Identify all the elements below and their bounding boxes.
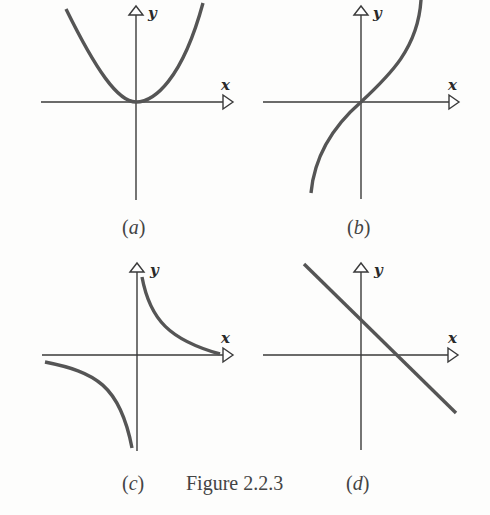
x-axis-label: x <box>220 76 231 94</box>
x-axis-arrow-icon <box>449 95 459 109</box>
panel-label-c: (c) <box>122 472 144 495</box>
x-axis-arrow-icon <box>223 95 233 109</box>
panel-label-d: (d) <box>346 472 369 495</box>
x-axis-label: x <box>447 329 458 347</box>
panel-d: x y (d) <box>263 261 458 495</box>
x-axis-label: x <box>447 76 458 94</box>
y-axis-label: y <box>149 261 160 279</box>
x-axis-label: x <box>220 329 231 347</box>
hyperbola-upper-branch <box>142 277 220 354</box>
figure-caption: Figure 2.2.3 <box>186 472 283 495</box>
linear-curve <box>304 264 456 413</box>
x-axis-arrow-icon <box>448 348 458 362</box>
y-axis-arrow-icon <box>129 6 143 15</box>
y-axis-label: y <box>373 261 384 279</box>
figure-2-2-3: x y (a) x y (b) x y (c) <box>0 0 490 515</box>
cubic-curve <box>311 0 421 193</box>
y-axis-arrow-icon <box>354 6 368 15</box>
y-axis-label: y <box>147 4 158 22</box>
y-axis-arrow-icon <box>354 263 368 272</box>
panel-b: x y (b) <box>263 0 459 239</box>
panel-a: x y (a) <box>41 3 233 239</box>
y-axis-arrow-icon <box>130 263 144 272</box>
hyperbola-lower-branch <box>45 362 132 448</box>
panel-c: x y (c) <box>42 261 233 495</box>
x-axis-arrow-icon <box>223 348 233 362</box>
parabola-curve <box>66 3 203 102</box>
panel-label-a: (a) <box>122 216 145 239</box>
y-axis-label: y <box>372 4 383 22</box>
panel-label-b: (b) <box>347 216 370 239</box>
